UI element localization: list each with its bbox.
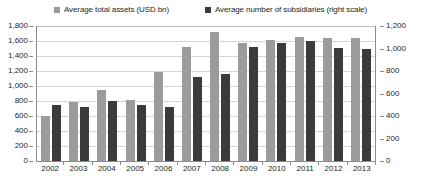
y-axis-right-tickmark: [380, 71, 384, 72]
y-axis-right-tick: 600: [386, 90, 399, 98]
bar-assets: [154, 72, 163, 161]
bar-group: [93, 26, 121, 161]
bar-group: [262, 26, 290, 161]
bar-group: [234, 26, 262, 161]
y-axis-right: 1,200 1,000 800 600 400 200 0: [380, 26, 420, 162]
bar-subsidiaries: [165, 107, 174, 161]
y-axis-right-tickmark: [380, 26, 384, 27]
x-axis-label: 2004: [93, 165, 121, 179]
y-axis-right-tick: 0: [386, 157, 390, 165]
bar-subsidiaries: [108, 101, 117, 161]
bar-assets: [210, 32, 219, 161]
bar-subsidiaries: [221, 74, 230, 161]
bar-group: [206, 26, 234, 161]
y-axis-right-tick: 200: [386, 135, 399, 143]
x-axis-label: 2006: [149, 165, 177, 179]
bar-subsidiaries: [80, 107, 89, 161]
y-axis-left-tick: 1,200: [8, 67, 28, 75]
x-axis-label: 2002: [36, 165, 64, 179]
y-axis-right-tickmark: [380, 139, 384, 140]
y-axis-left-tick: 1,800: [8, 22, 28, 30]
bar-group: [291, 26, 319, 161]
y-axis-left-tickmark: [29, 41, 33, 42]
bar-subsidiaries: [137, 105, 146, 161]
x-axis: 2002200320042005200620072008200920102011…: [36, 165, 376, 179]
bar-assets: [126, 100, 135, 161]
y-axis-left-tickmark: [29, 71, 33, 72]
x-axis-label: 2005: [121, 165, 149, 179]
y-axis-left-tickmark: [29, 146, 33, 147]
bar-group: [178, 26, 206, 161]
legend-item-assets: Average total assets (USD bn): [54, 6, 169, 14]
y-axis-right-tickmark: [380, 94, 384, 95]
bar-assets: [323, 38, 332, 161]
x-axis-label: 2012: [319, 165, 347, 179]
bar-subsidiaries: [249, 47, 258, 161]
y-axis-left-tickmark: [29, 26, 33, 27]
y-axis-left-tickmark: [29, 116, 33, 117]
bar-group: [122, 26, 150, 161]
bar-group: [150, 26, 178, 161]
y-axis-left-tick: 1,000: [8, 82, 28, 90]
y-axis-left-tickmark: [29, 86, 33, 87]
y-axis-left-tick: 0: [24, 157, 28, 165]
y-axis-left-tickmark: [29, 56, 33, 57]
legend-label-subsidiaries: Average number of subsidiaries (right sc…: [215, 6, 367, 14]
bar-assets: [41, 116, 50, 161]
y-axis-left-tickmark: [29, 101, 33, 102]
bar-groups: [37, 26, 375, 161]
bar-group: [319, 26, 347, 161]
bar-assets: [295, 37, 304, 162]
legend-swatch-dark-icon: [205, 7, 211, 13]
bar-subsidiaries: [306, 41, 315, 161]
x-axis-label: 2007: [178, 165, 206, 179]
y-axis-right-tick: 1,000: [386, 45, 406, 53]
bar-assets: [266, 40, 275, 162]
bar-assets: [238, 43, 247, 162]
bar-assets: [182, 47, 191, 161]
bar-subsidiaries: [362, 49, 371, 161]
y-axis-right-tickmark: [380, 161, 384, 162]
x-axis-label: 2008: [206, 165, 234, 179]
y-axis-left: 1,800 1,600 1,400 1,200 1,000 800 600 40…: [0, 26, 33, 162]
y-axis-right-tick: 1,200: [386, 22, 406, 30]
bar-assets: [69, 102, 78, 161]
bar-subsidiaries: [334, 48, 343, 161]
y-axis-left-tickmark: [29, 161, 33, 162]
bar-assets: [351, 38, 360, 161]
y-axis-right-tickmark: [380, 49, 384, 50]
chart-container: Average total assets (USD bn) Average nu…: [0, 0, 421, 185]
chart-legend: Average total assets (USD bn) Average nu…: [0, 2, 421, 18]
y-axis-left-tickmark: [29, 131, 33, 132]
x-axis-label: 2013: [348, 165, 376, 179]
bar-subsidiaries: [193, 77, 202, 161]
x-axis-label: 2010: [263, 165, 291, 179]
legend-swatch-gray-icon: [54, 7, 60, 13]
bar-group: [65, 26, 93, 161]
legend-label-assets: Average total assets (USD bn): [64, 6, 169, 14]
y-axis-right-tickmark: [380, 116, 384, 117]
y-axis-left-tick: 1,600: [8, 37, 28, 45]
x-axis-label: 2011: [291, 165, 319, 179]
bar-subsidiaries: [277, 43, 286, 161]
y-axis-left-tick: 200: [15, 142, 28, 150]
y-axis-left-tick: 800: [15, 97, 28, 105]
plot-area: [36, 26, 376, 162]
bar-subsidiaries: [52, 105, 61, 161]
y-axis-left-tick: 600: [15, 112, 28, 120]
x-axis-label: 2009: [234, 165, 262, 179]
y-axis-left-tick: 400: [15, 127, 28, 135]
x-axis-label: 2003: [64, 165, 92, 179]
y-axis-right-tick: 800: [386, 67, 399, 75]
y-axis-right-tick: 400: [386, 112, 399, 120]
bar-assets: [97, 90, 106, 161]
y-axis-left-tick: 1,400: [8, 52, 28, 60]
legend-item-subsidiaries: Average number of subsidiaries (right sc…: [205, 6, 367, 14]
bar-group: [37, 26, 65, 161]
bar-group: [347, 26, 375, 161]
